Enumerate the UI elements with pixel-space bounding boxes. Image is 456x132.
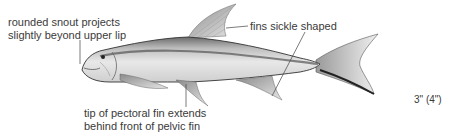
snout-annotation: rounded snout projects slightly beyond u…: [8, 16, 126, 42]
fins-annotation: fins sickle shaped: [250, 20, 337, 33]
pectoral-annotation-line2: behind front of pelvic fin: [84, 120, 206, 132]
pelvic-fin: [176, 80, 208, 106]
dorsal-leader-line: [226, 26, 248, 28]
snout-annotation-line1: rounded snout projects: [8, 16, 126, 29]
eye: [101, 55, 105, 59]
snout-annotation-line2: slightly beyond upper lip: [8, 29, 126, 42]
pectoral-annotation: tip of pectoral fin extends behind front…: [84, 107, 206, 132]
size-label: 3" (4"): [414, 93, 442, 106]
tail-fin: [316, 34, 378, 94]
anal-fin: [236, 76, 282, 100]
dorsal-fin: [188, 4, 236, 38]
pectoral-annotation-line1: tip of pectoral fin extends: [84, 107, 206, 120]
